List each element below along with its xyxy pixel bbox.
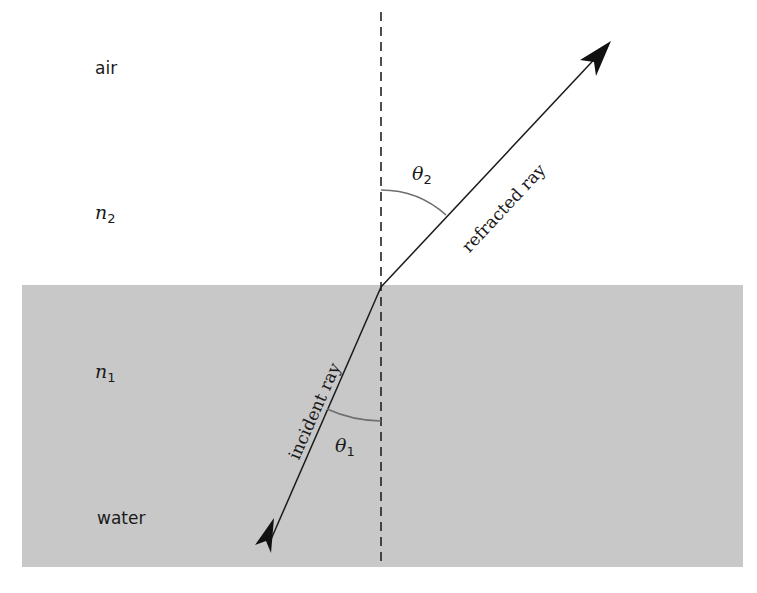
refraction-diagram: air n2 n1 water θ2 θ1 refracted ray inci… — [0, 0, 757, 593]
refracted-arrowhead-icon — [580, 41, 611, 76]
index-label-n1: n1 — [95, 362, 116, 384]
diagram-canvas — [0, 0, 757, 593]
index-symbol: n — [95, 201, 107, 223]
medium-label-water: water — [97, 510, 145, 527]
theta-subscript: 1 — [346, 444, 354, 459]
index-label-n2: n2 — [95, 203, 116, 225]
angle-label-theta2: θ2 — [412, 164, 432, 186]
theta-symbol: θ — [335, 434, 346, 456]
index-subscript: 2 — [107, 211, 115, 226]
index-subscript: 1 — [107, 370, 115, 385]
theta-subscript: 2 — [423, 172, 431, 187]
medium-label-air: air — [95, 60, 117, 77]
theta-symbol: θ — [412, 162, 423, 184]
angle-label-theta1: θ1 — [335, 436, 355, 458]
theta2-arc — [381, 190, 446, 215]
index-symbol: n — [95, 360, 107, 382]
